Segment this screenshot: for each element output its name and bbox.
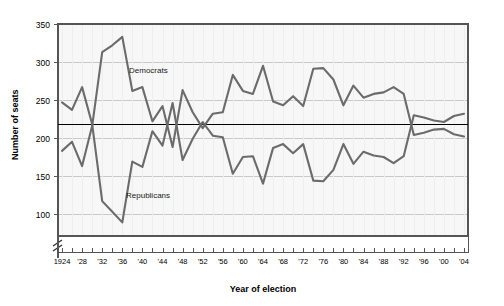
x-tick-label: '32 bbox=[97, 257, 107, 266]
x-tick-label: '92 bbox=[399, 257, 409, 266]
x-tick-label: '36 bbox=[117, 257, 127, 266]
y-axis-title: Number of seats bbox=[10, 89, 20, 160]
x-tick-label: '88 bbox=[379, 257, 389, 266]
x-tick-label: '60 bbox=[238, 257, 248, 266]
y-tick-label: 250 bbox=[36, 96, 50, 106]
house-seats-line-chart: 350300250200150100 1924'28'32'36'40'44'4… bbox=[0, 0, 504, 306]
y-tick-label: 200 bbox=[36, 134, 50, 144]
x-axis-title: Year of election bbox=[230, 284, 297, 294]
x-axis: 1924'28'32'36'40'44'48'52'56'60'64'68'72… bbox=[54, 236, 469, 266]
x-tick-label: '00 bbox=[439, 257, 449, 266]
x-tick-label: '44 bbox=[158, 257, 168, 266]
x-tick-label: 1924 bbox=[54, 257, 71, 266]
y-tick-label: 350 bbox=[36, 20, 50, 30]
y-tick-label: 100 bbox=[36, 210, 50, 220]
x-tick-label: '84 bbox=[359, 257, 369, 266]
x-tick-label: '96 bbox=[419, 257, 429, 266]
x-tick-label: '72 bbox=[298, 257, 308, 266]
x-tick-label: '04 bbox=[459, 257, 469, 266]
vertical-gridlines bbox=[63, 25, 465, 235]
x-tick-label: '40 bbox=[138, 257, 148, 266]
y-tick-label: 300 bbox=[36, 58, 50, 68]
x-tick-label: '52 bbox=[198, 257, 208, 266]
democrats-series-label: Democrats bbox=[129, 66, 168, 75]
y-axis: 350300250200150100 bbox=[36, 20, 58, 220]
x-tick-label: '80 bbox=[339, 257, 349, 266]
x-tick-label: '48 bbox=[178, 257, 188, 266]
x-tick-label: '68 bbox=[278, 257, 288, 266]
x-tick-label: '56 bbox=[218, 257, 228, 266]
republicans-series-label: Republicans bbox=[126, 191, 170, 200]
chart-root: 350300250200150100 1924'28'32'36'40'44'4… bbox=[0, 0, 504, 306]
x-tick-label: '28 bbox=[77, 257, 87, 266]
x-tick-label: '64 bbox=[258, 257, 268, 266]
y-tick-label: 150 bbox=[36, 172, 50, 182]
x-tick-label: '76 bbox=[318, 257, 328, 266]
